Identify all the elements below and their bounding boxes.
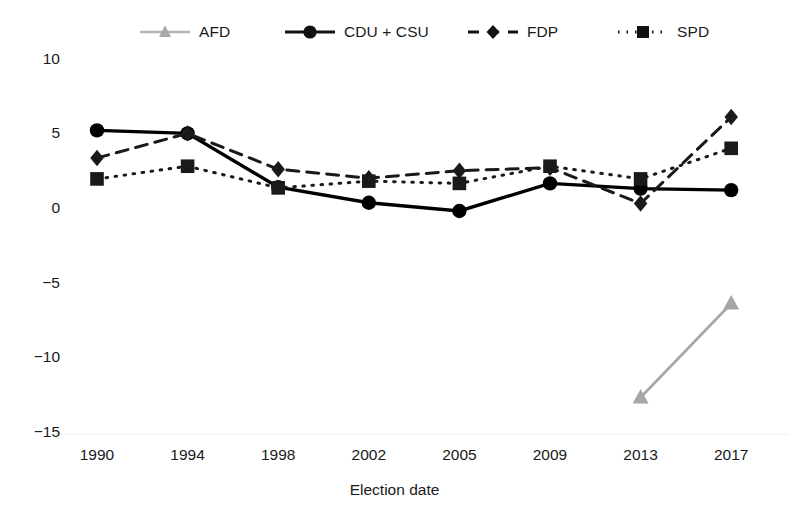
data-point-square — [90, 172, 104, 186]
data-point-square — [181, 159, 195, 173]
x-tick-label: 2009 — [515, 447, 585, 463]
data-point-square — [634, 172, 648, 186]
data-point-diamond — [90, 150, 103, 166]
x-tick-label: 2017 — [696, 447, 766, 463]
plot-svg — [0, 0, 789, 515]
x-tick-label: 1990 — [62, 447, 132, 463]
y-tick-label: 5 — [14, 125, 60, 141]
data-point-circle — [452, 204, 466, 218]
data-point-circle — [724, 183, 738, 197]
data-point-square — [271, 181, 285, 195]
data-point-square — [362, 174, 376, 188]
y-tick-label: −10 — [14, 349, 60, 365]
x-tick-label: 2013 — [606, 447, 676, 463]
x-tick-label: 1998 — [243, 447, 313, 463]
y-tick-label: −5 — [14, 275, 60, 291]
data-point-circle — [362, 196, 376, 210]
x-axis-title: Election date — [0, 481, 789, 499]
y-tick-label: 10 — [14, 51, 60, 67]
x-tick-label: 2005 — [424, 447, 494, 463]
series-line — [641, 303, 732, 397]
data-point-diamond — [181, 125, 194, 141]
y-tick-label: 0 — [14, 200, 60, 216]
data-point-square — [543, 159, 557, 173]
chart-container: AFD CDU + CSU FDP — [0, 0, 789, 515]
series-afd — [633, 295, 740, 403]
x-tick-label: 1994 — [153, 447, 223, 463]
y-tick-label: −15 — [14, 424, 60, 440]
x-tick-label: 2002 — [334, 447, 404, 463]
data-point-square — [453, 177, 467, 191]
data-point-circle — [543, 176, 557, 190]
data-point-diamond — [271, 161, 284, 177]
data-point-triangle — [723, 295, 739, 309]
data-point-circle — [90, 123, 104, 137]
plot-area — [0, 0, 789, 515]
data-point-square — [724, 142, 738, 156]
data-point-diamond — [453, 163, 466, 179]
